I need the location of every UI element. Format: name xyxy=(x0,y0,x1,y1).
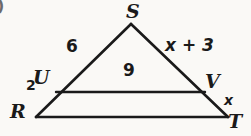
measure-label-VT: x xyxy=(224,93,233,107)
vertex-label-V: V xyxy=(205,72,220,91)
measure-label-RU: 2 xyxy=(26,78,36,92)
problem-number: ) xyxy=(0,0,4,14)
measure-label-SU: 6 xyxy=(66,38,78,55)
geometry-figure: ) S R T U V 6 x + 3 9 2 x xyxy=(0,0,251,136)
segment-RS xyxy=(36,24,131,117)
vertex-label-S: S xyxy=(126,2,140,21)
measure-label-SV: x + 3 xyxy=(165,37,214,54)
measure-label-UV: 9 xyxy=(123,62,135,79)
vertex-label-T: T xyxy=(228,112,242,131)
vertex-label-R: R xyxy=(10,102,26,121)
